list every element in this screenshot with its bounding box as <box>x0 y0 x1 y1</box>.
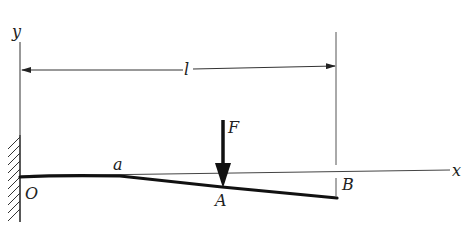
deflected-beam <box>20 176 337 198</box>
point-B-label: B <box>341 175 354 194</box>
x-axis-label: x <box>452 161 461 180</box>
point-a-label: a <box>113 155 123 174</box>
y-axis-label: y <box>11 22 22 41</box>
origin-label: O <box>25 184 38 203</box>
length-label: l <box>184 60 189 79</box>
fixed-wall-support <box>8 135 20 222</box>
diagram-canvas: y x l F O a A B <box>0 0 473 226</box>
point-A-label: A <box>213 191 227 210</box>
length-dimension <box>22 32 336 196</box>
force-label: F <box>227 118 240 137</box>
beam-diagram: y x l F O a A B <box>0 0 473 226</box>
